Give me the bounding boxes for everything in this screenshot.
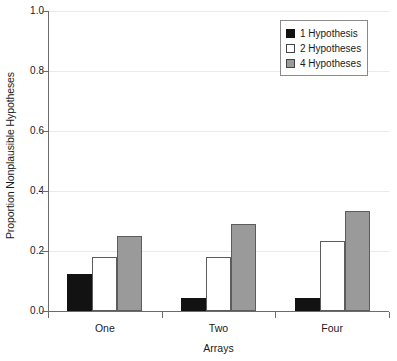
y-axis-tick-label: 0.4	[20, 186, 44, 196]
y-axis-tick-label: 1.0	[20, 6, 44, 16]
legend-item-label: 1 Hypothesis	[300, 28, 358, 39]
x-axis-group-label: One	[65, 322, 145, 334]
legend-swatch-icon	[286, 59, 295, 68]
legend-swatch-icon	[286, 44, 295, 53]
x-axis-tick-mark	[389, 312, 390, 318]
legend-item-label: 4 Hypotheses	[300, 58, 361, 69]
x-axis-group-label: Two	[179, 322, 259, 334]
bar	[181, 298, 206, 312]
legend-item: 1 Hypothesis	[286, 26, 361, 40]
x-axis-tick-mark	[162, 312, 163, 318]
bar	[92, 257, 117, 311]
legend-item: 2 Hypotheses	[286, 41, 361, 55]
y-axis-title: Proportion Nonplausible Hypotheses	[2, 0, 18, 311]
legend-item: 4 Hypotheses	[286, 56, 361, 70]
x-axis-title: Arrays	[48, 342, 389, 354]
x-axis-tick-mark	[275, 312, 276, 318]
bar	[295, 298, 320, 312]
bar	[117, 236, 142, 311]
y-axis-tick-label: 0.6	[20, 126, 44, 136]
bar	[231, 224, 256, 311]
x-axis-group-label: Four	[292, 322, 372, 334]
y-axis-tick-label: 0.2	[20, 246, 44, 256]
x-axis-tick-mark	[48, 312, 49, 318]
bar-chart: Proportion Nonplausible Hypotheses 0.00.…	[0, 0, 397, 361]
legend-swatch-icon	[286, 29, 295, 38]
legend-item-label: 2 Hypotheses	[300, 43, 361, 54]
bar	[320, 241, 345, 312]
bar	[345, 211, 370, 311]
y-axis-tick-label: 0.0	[20, 306, 44, 316]
x-axis-line	[48, 311, 389, 312]
legend: 1 Hypothesis2 Hypotheses4 Hypotheses	[280, 20, 368, 76]
bar	[206, 257, 231, 311]
bar	[67, 274, 92, 312]
y-axis-tick-labels: 0.00.20.40.60.81.0	[18, 0, 44, 361]
y-axis-tick-label: 0.8	[20, 66, 44, 76]
